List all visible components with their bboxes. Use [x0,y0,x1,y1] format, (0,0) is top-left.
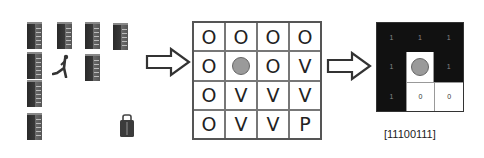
grid-cell: O [194,111,224,138]
server-icon [27,80,42,107]
grid-cell: V [226,111,256,138]
local-view-cell: 1 [434,52,463,81]
local-view-cell: 1 [377,23,406,52]
server-icon [27,22,42,49]
grid-cell: O [226,23,256,50]
grid-cell: V [258,111,288,138]
grid-cell: O [194,52,224,79]
bag-icon [119,114,135,138]
server-icon [85,22,100,49]
grid-cell: P [290,111,320,138]
local-view-cell: 1 [434,23,463,52]
grid-cell: V [258,82,288,109]
grid-cell: O [290,23,320,50]
server-icon [113,23,128,50]
local-view-cell: 1 [377,52,406,81]
arrow-right-icon [145,47,191,77]
person-icon [52,54,72,78]
grid-cell: V [290,52,320,79]
arrow-right-icon [326,51,372,81]
grid-cell: O [258,52,288,79]
local-view-cell: 1 [377,82,406,111]
server-icon [57,22,72,49]
grid-cell: O [194,23,224,50]
local-view-grid: 11111100 [376,22,464,112]
grid-cell: O [194,82,224,109]
grid-cell: O [258,23,288,50]
server-icon [85,54,100,81]
local-view-cell: 1 [406,23,435,52]
grid-cell [226,52,256,79]
grid-cell: V [290,82,320,109]
occupancy-grid: OOOOOOVOVVVOVVP [192,21,322,140]
binary-code-label: [11100111] [384,128,436,140]
agent-marker-icon [232,57,250,75]
server-icon [27,52,42,79]
grid-cell: V [226,82,256,109]
server-icon [27,113,42,140]
local-view-cell: 0 [434,82,463,111]
agent-marker-icon [411,58,429,76]
local-view-cell: 0 [406,82,435,111]
local-view-cell [406,52,435,81]
